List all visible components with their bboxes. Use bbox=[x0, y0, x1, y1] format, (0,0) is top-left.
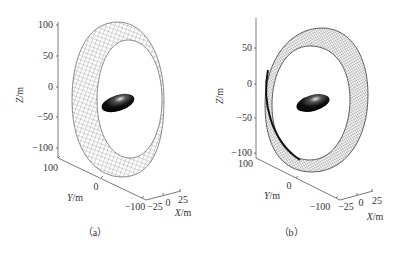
z-tick-label: 0 bbox=[247, 78, 252, 89]
y-axis-label: Y/m bbox=[264, 190, 280, 201]
panel-caption-b: （b） bbox=[279, 227, 304, 238]
figure-canvas: 100 50 0 −50 −100 Z/m 100 0 −100 Y/m −25… bbox=[0, 0, 400, 254]
y-tick-label: 0 bbox=[287, 180, 292, 191]
x-tick-label: −25 bbox=[147, 201, 163, 212]
central-ellipsoid bbox=[99, 90, 136, 116]
x-tick-label: −25 bbox=[338, 201, 354, 212]
z-tick-label: −100 bbox=[32, 142, 53, 153]
z-axis-ticks: 100 50 0 −50 −100 bbox=[32, 19, 58, 153]
y-tick-label: 100 bbox=[238, 158, 253, 169]
x-axis-label: X/m bbox=[366, 211, 384, 222]
panel-b: 50 0 −50 −100 Z/m 100 0 −100 Y/m −25 0 2… bbox=[214, 18, 384, 238]
z-tick-label: 50 bbox=[242, 42, 252, 53]
z-tick-label: 0 bbox=[48, 81, 53, 92]
z-axis-ticks: 50 0 −50 −100 bbox=[231, 42, 256, 158]
central-ellipsoid bbox=[295, 91, 332, 115]
z-tick-label: −100 bbox=[231, 147, 252, 158]
z-tick-label: −50 bbox=[37, 111, 53, 122]
x-tick-label: 0 bbox=[166, 197, 171, 208]
panel-caption-a: （a） bbox=[83, 227, 107, 238]
z-axis-label: Z/m bbox=[14, 87, 25, 103]
y-tick-label: 0 bbox=[94, 181, 99, 192]
x-tick-label: 25 bbox=[178, 194, 188, 205]
y-tick-label: −100 bbox=[310, 201, 331, 212]
z-axis-label: Z/m bbox=[214, 88, 225, 104]
x-tick-label: 0 bbox=[359, 197, 364, 208]
y-tick-label: −100 bbox=[125, 201, 146, 212]
z-tick-label: 50 bbox=[43, 50, 53, 61]
x-axis-label: X/m bbox=[174, 207, 192, 218]
y-axis-label: Y/m bbox=[67, 192, 83, 203]
x-axis-line bbox=[146, 191, 181, 200]
y-tick-label: 100 bbox=[43, 162, 58, 173]
x-tick-label: 25 bbox=[372, 195, 382, 206]
z-tick-label: 100 bbox=[38, 19, 53, 30]
z-tick-label: −50 bbox=[236, 112, 252, 123]
panel-a: 100 50 0 −50 −100 Z/m 100 0 −100 Y/m −25… bbox=[14, 19, 192, 238]
x-axis-line bbox=[340, 191, 373, 200]
